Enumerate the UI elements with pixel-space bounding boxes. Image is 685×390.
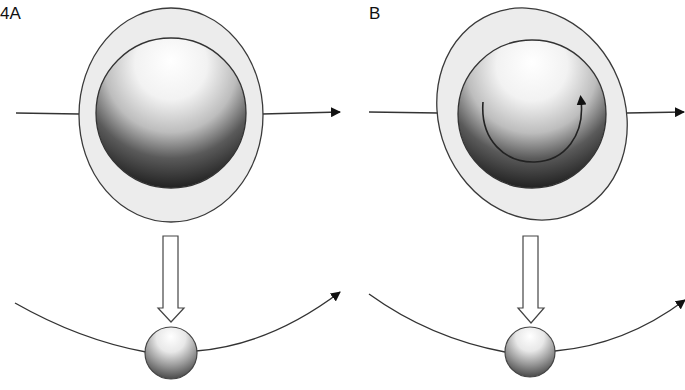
down-arrow-a [158, 236, 184, 322]
trajectory-b-left [369, 294, 505, 352]
outgoing-ray-a [262, 112, 340, 114]
small-sphere-b [505, 327, 555, 377]
trajectory-b-right [555, 300, 685, 351]
figure-canvas [0, 0, 685, 390]
small-sphere-a [145, 327, 197, 379]
incoming-ray-b [369, 112, 438, 113]
trajectory-a-right [196, 292, 340, 351]
inner-sphere-a [96, 38, 246, 188]
inner-sphere-b [458, 40, 606, 188]
outgoing-ray-b [627, 112, 684, 113]
trajectory-a-left [15, 303, 146, 352]
incoming-ray-a [16, 113, 79, 114]
panel-a [15, 8, 340, 379]
panel-b [369, 0, 685, 377]
down-arrow-b [518, 236, 544, 323]
